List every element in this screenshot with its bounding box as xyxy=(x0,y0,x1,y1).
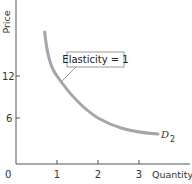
x-axis-label: Quantity xyxy=(152,169,192,180)
annotation-leader-line xyxy=(62,67,76,81)
x-tick-label-1: 1 xyxy=(54,169,60,180)
origin-label: 0 xyxy=(5,169,11,180)
y-tick-label-12: 12 xyxy=(2,71,15,82)
demand-chart: Price 12 6 0 1 2 3 Quantity Elasticity =… xyxy=(0,0,192,184)
x-tick-label-2: 2 xyxy=(95,169,101,180)
y-axis-label: Price xyxy=(1,10,12,33)
y-tick-label-6: 6 xyxy=(6,113,12,124)
demand-curve-d2-smooth xyxy=(45,32,158,134)
elasticity-annotation-text: Elasticity = 1 xyxy=(62,54,128,65)
curve-label-d: D xyxy=(160,129,169,140)
curve-label-subscript: 2 xyxy=(170,135,175,144)
x-tick-label-3: 3 xyxy=(136,169,142,180)
